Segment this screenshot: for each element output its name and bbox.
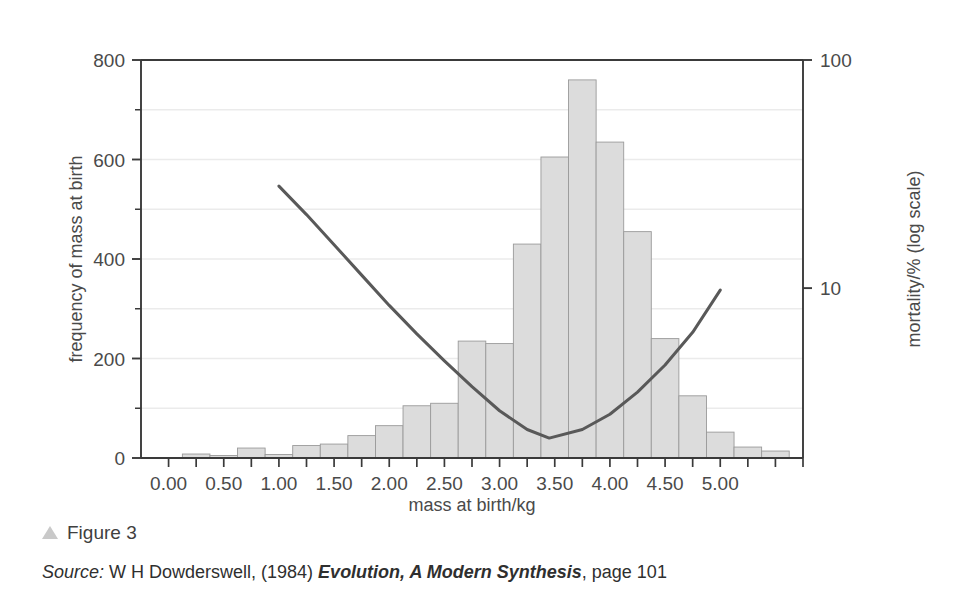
histogram-bar <box>541 157 569 458</box>
histogram-bar <box>596 142 624 458</box>
x-axis-tick-label: 0.00 <box>150 473 187 494</box>
x-axis-tick-label: 4.00 <box>591 473 628 494</box>
histogram-bar <box>375 426 403 458</box>
histogram-bar <box>569 80 597 458</box>
y-axis-tick-label: 600 <box>93 150 125 171</box>
source-prefix: Source: <box>42 562 104 582</box>
x-axis-tick-label: 3.00 <box>481 473 518 494</box>
histogram-bar <box>679 396 707 458</box>
source-caption: Source: W H Dowderswell, (1984) Evolutio… <box>42 561 922 584</box>
x-axis-tick-label: 4.50 <box>647 473 684 494</box>
figure-caption: Figure 3 <box>42 523 922 542</box>
x-axis-tick-label: 2.00 <box>371 473 408 494</box>
source-suffix: , page 101 <box>582 562 667 582</box>
y-axis-tick-label: 0 <box>114 448 125 469</box>
histogram-bar <box>403 406 431 458</box>
y2-axis-tick-label: 100 <box>820 50 852 71</box>
histogram-bar <box>458 341 486 458</box>
x-axis-tick-label: 1.00 <box>260 473 297 494</box>
caption-block: Figure 3 Source: W H Dowderswell, (1984)… <box>42 523 922 584</box>
histogram-bar <box>293 446 321 458</box>
y-axis-right-title: mortality/% (log scale) <box>904 170 924 347</box>
x-axis-tick-label: 5.00 <box>702 473 739 494</box>
histogram-bar <box>348 436 376 458</box>
histogram-bar <box>706 432 734 458</box>
histogram-bar <box>762 451 790 458</box>
histogram-bar <box>734 447 762 458</box>
source-author: W H Dowderswell, (1984) <box>104 562 318 582</box>
source-work-title: Evolution, A Modern Synthesis <box>318 562 582 582</box>
x-axis-tick-label: 2.50 <box>426 473 463 494</box>
y-axis-left-title: frequency of mass at birth <box>66 155 86 362</box>
figure-label: Figure 3 <box>67 523 137 542</box>
histogram-bar <box>431 403 459 458</box>
x-axis-tick-label: 0.50 <box>205 473 242 494</box>
triangle-up-icon <box>42 526 58 539</box>
y-axis-tick-label: 400 <box>93 249 125 270</box>
x-axis-tick-label: 1.50 <box>316 473 353 494</box>
y-axis-tick-label: 800 <box>93 50 125 71</box>
histogram-bar <box>651 339 679 458</box>
x-axis-tick-label: 3.50 <box>536 473 573 494</box>
chart-canvas: 0200400600800101000.000.501.001.502.002.… <box>0 0 967 520</box>
y2-axis-tick-label: 10 <box>820 278 841 299</box>
x-axis-title: mass at birth/kg <box>408 495 535 515</box>
histogram-bar <box>320 444 348 458</box>
y-axis-tick-label: 200 <box>93 349 125 370</box>
histogram-bar <box>238 448 266 458</box>
histogram-bar <box>513 244 541 458</box>
figure-root: 0200400600800101000.000.501.001.502.002.… <box>0 0 967 607</box>
histogram-bar <box>624 232 652 458</box>
histogram-bars <box>182 80 789 458</box>
